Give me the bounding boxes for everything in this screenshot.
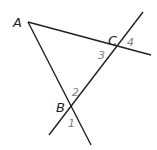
point-label-b: B bbox=[56, 100, 65, 115]
point-label-a: A bbox=[12, 15, 22, 30]
triangle-diagram: A B C 1 2 3 4 bbox=[0, 0, 157, 150]
angle-label-4: 4 bbox=[127, 36, 134, 49]
angle-label-2: 2 bbox=[72, 86, 79, 99]
angle-label-1: 1 bbox=[68, 117, 75, 130]
point-label-c: C bbox=[108, 33, 118, 48]
angle-label-3: 3 bbox=[98, 49, 105, 62]
transversal-bc bbox=[49, 12, 143, 135]
line-ab-extended bbox=[28, 22, 91, 145]
